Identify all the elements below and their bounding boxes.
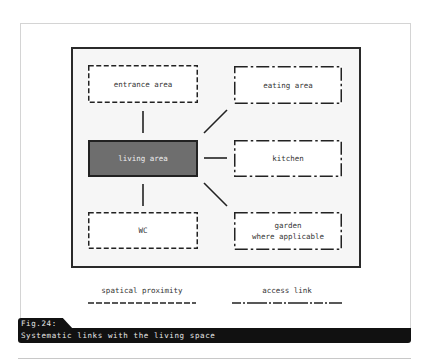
figure-caption: Systematic links with the living space [21, 331, 215, 340]
figure-number: Fig.24: [21, 319, 57, 328]
bottom-divider [18, 358, 411, 359]
legend-access-label: access link [232, 286, 342, 295]
legend-lines [0, 0, 433, 363]
